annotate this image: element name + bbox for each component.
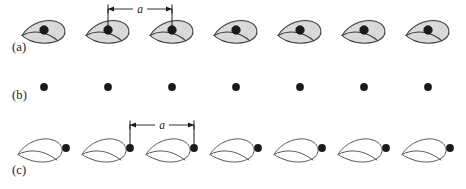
lattice-dot-b-3 xyxy=(168,83,176,91)
motif-c-4 xyxy=(210,139,254,162)
lattice-dot-c-4 xyxy=(254,144,262,152)
lattice-dot-a-4 xyxy=(232,26,240,34)
motif-c-7 xyxy=(402,139,446,162)
lattice-dot-a-6 xyxy=(360,26,368,34)
lattice-dot-b-2 xyxy=(104,83,112,91)
lattice-figure: a a xyxy=(0,0,466,189)
motif-c-3 xyxy=(146,139,190,162)
lattice-dot-c-6 xyxy=(382,144,390,152)
motif-c-6 xyxy=(338,139,382,162)
dimension-label-lattice-constant: a xyxy=(159,119,165,131)
lattice-dot-b-5 xyxy=(296,83,304,91)
motif-c-5 xyxy=(274,139,318,162)
row-a-group: a xyxy=(22,3,449,44)
dimension-arrowhead xyxy=(188,122,194,127)
lattice-dot-b-7 xyxy=(424,83,432,91)
dimension-arrowhead xyxy=(108,6,114,11)
lattice-dot-c-5 xyxy=(318,144,326,152)
row-c-motifs xyxy=(18,139,446,162)
row-label-b: (b) xyxy=(12,88,27,103)
lattice-dot-c-1 xyxy=(62,144,70,152)
row-c-group: a xyxy=(18,119,454,162)
dimension-label-lattice-constant: a xyxy=(137,3,143,15)
row-label-a: (a) xyxy=(12,40,26,55)
lattice-dot-a-7 xyxy=(424,26,432,34)
dimension-arrowhead xyxy=(130,122,136,127)
lattice-dot-b-4 xyxy=(232,83,240,91)
lattice-dot-a-5 xyxy=(296,26,304,34)
lattice-dot-b-1 xyxy=(40,83,48,91)
row-label-c: (c) xyxy=(12,163,26,178)
lattice-dot-b-6 xyxy=(360,83,368,91)
motif-c-2 xyxy=(82,139,126,162)
lattice-dot-a-1 xyxy=(40,26,48,34)
row-b-dots xyxy=(40,83,432,91)
dimension-arrowhead xyxy=(166,6,172,11)
motif-c-1 xyxy=(18,139,62,162)
lattice-dot-c-7 xyxy=(446,144,454,152)
row-b-group xyxy=(40,83,432,91)
